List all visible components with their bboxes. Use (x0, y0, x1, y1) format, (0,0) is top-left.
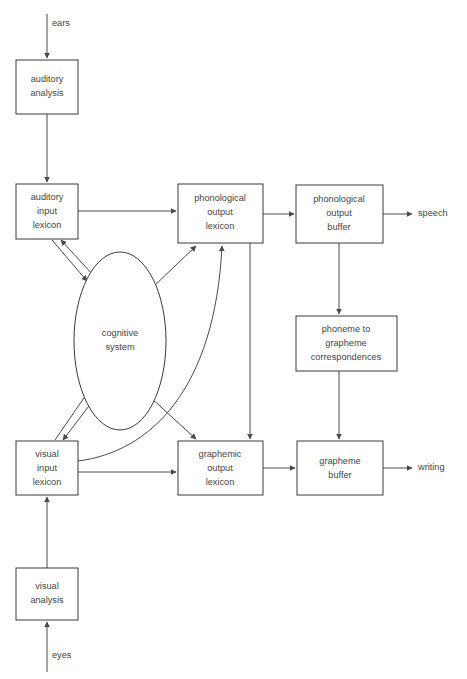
node-graphemic-output-lexicon[interactable]: graphemic output lexicon (178, 441, 263, 495)
node-phoneme-to-grapheme[interactable]: phoneme to grapheme correspondences (296, 316, 397, 371)
node-auditory-input-lexicon[interactable]: auditory input lexicon (16, 184, 78, 239)
node-grapheme-buffer[interactable]: grapheme buffer (297, 441, 383, 495)
node-label-phonological-output-lexicon-line2: output (207, 207, 233, 217)
node-visual-input-lexicon[interactable]: visual input lexicon (16, 441, 78, 495)
edge-auditory-input-to-cognitive-system (52, 240, 87, 281)
node-label-cognitive-system-line1: cognitive (102, 328, 138, 338)
node-label-graphemic-output-lexicon-line3: lexicon (206, 477, 235, 487)
node-label-grapheme-buffer-line1: grapheme (319, 456, 360, 466)
io-label-ears: ears (52, 18, 70, 28)
node-label-visual-analysis-line1: visual (35, 581, 59, 591)
diagram-canvas: auditory analysis auditory input lexicon… (0, 0, 467, 679)
node-cognitive-system[interactable]: cognitive system (74, 252, 166, 430)
node-label-phonological-output-lexicon-line3: lexicon (206, 221, 235, 231)
io-label-writing: writing (417, 462, 445, 472)
node-label-phoneme-to-grapheme-line3: correspondences (311, 352, 382, 362)
node-label-visual-input-lexicon-line1: visual (35, 449, 59, 459)
node-label-cognitive-system-line2: system (105, 342, 134, 352)
figure-caption (0, 670, 467, 679)
node-label-auditory-input-lexicon-line1: auditory (31, 192, 64, 202)
io-label-eyes: eyes (52, 650, 72, 660)
edge-cognitive-system-to-phonological-output-lexicon (153, 246, 196, 287)
node-label-phonological-output-lexicon-line1: phonological (194, 193, 246, 203)
node-label-auditory-analysis-line1: auditory (31, 74, 64, 84)
node-label-auditory-analysis-line2: analysis (30, 88, 64, 98)
node-label-visual-input-lexicon-line3: lexicon (33, 477, 62, 487)
io-label-speech: speech (418, 208, 448, 218)
edge-visual-input-to-cognitive-system (55, 392, 88, 440)
node-label-graphemic-output-lexicon-line2: output (207, 463, 233, 473)
node-label-phonological-output-buffer-line3: buffer (327, 222, 350, 232)
node-label-visual-analysis-line2: analysis (30, 595, 64, 605)
node-visual-analysis[interactable]: visual analysis (16, 568, 78, 620)
node-phonological-output-buffer[interactable]: phonological output buffer (296, 185, 383, 243)
node-label-phoneme-to-grapheme-line2: grapheme (325, 338, 366, 348)
node-label-phonological-output-buffer-line2: output (326, 208, 352, 218)
node-label-phonological-output-buffer-line1: phonological (313, 194, 365, 204)
node-label-grapheme-buffer-line2: buffer (328, 470, 351, 480)
node-label-auditory-input-lexicon-line3: lexicon (33, 220, 62, 230)
node-label-phoneme-to-grapheme-line1: phoneme to (322, 324, 371, 334)
node-auditory-analysis[interactable]: auditory analysis (16, 60, 78, 114)
node-phonological-output-lexicon[interactable]: phonological output lexicon (178, 184, 263, 243)
language-processing-diagram: auditory analysis auditory input lexicon… (0, 0, 467, 679)
node-label-graphemic-output-lexicon-line1: graphemic (199, 449, 242, 459)
node-label-auditory-input-lexicon-line2: input (37, 206, 57, 216)
edge-cognitive-system-to-graphemic-lexicon (150, 397, 196, 439)
node-label-visual-input-lexicon-line2: input (37, 463, 57, 473)
